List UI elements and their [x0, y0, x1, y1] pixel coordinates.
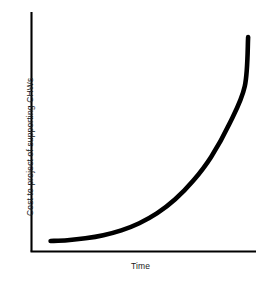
- chart-canvas: [0, 0, 271, 283]
- chart-figure: Cost to project of supporting CHWs Time: [0, 0, 271, 283]
- data-series-group: [51, 37, 249, 241]
- y-axis-label: Cost to project of supporting CHWs: [25, 78, 35, 216]
- exponential-cost-curve: [51, 37, 249, 241]
- axes-group: [31, 12, 257, 252]
- x-axis-label: Time: [5, 261, 271, 271]
